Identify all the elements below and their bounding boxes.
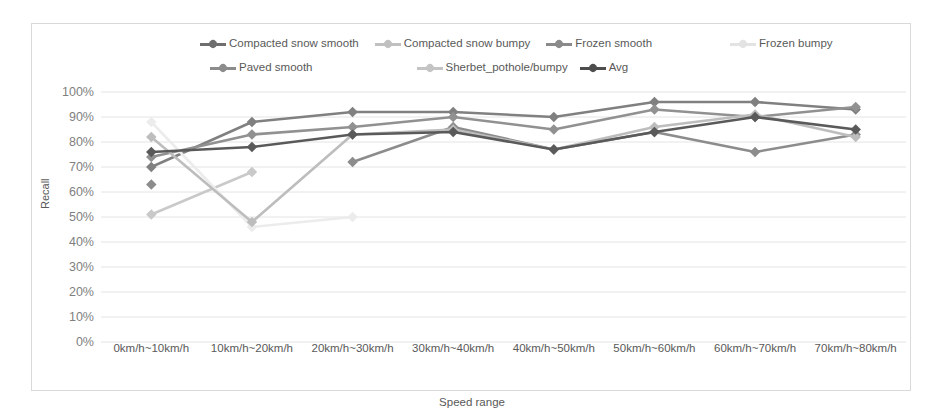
data-point-marker xyxy=(146,132,156,142)
y-axis-tick-label: 90% xyxy=(48,110,94,124)
y-axis-tick-label: 0% xyxy=(48,335,94,349)
x-axis-tick-label: 50km/h~60km/h xyxy=(604,342,705,354)
data-point-marker xyxy=(347,107,357,117)
series-line xyxy=(146,109,861,227)
data-point-marker xyxy=(850,102,860,112)
y-axis-tick-label: 30% xyxy=(48,260,94,274)
series-line xyxy=(146,167,257,220)
y-axis-tick-label: 60% xyxy=(48,185,94,199)
x-axis-tick-label: 0km/h~10km/h xyxy=(101,342,202,354)
chart-legend: Compacted snow smoothCompacted snow bump… xyxy=(32,32,912,80)
series-line xyxy=(146,97,861,172)
data-point-marker xyxy=(549,144,559,154)
data-point-marker xyxy=(549,112,559,122)
data-point-marker xyxy=(146,117,156,127)
legend-label: Compacted snow smooth xyxy=(229,38,359,50)
data-point-marker xyxy=(347,122,357,132)
legend-item[interactable]: Frozen bumpy xyxy=(730,38,833,50)
data-point-marker xyxy=(649,127,659,137)
legend-label: Frozen bumpy xyxy=(759,38,833,50)
x-axis-tick-label: 70km/h~80km/h xyxy=(805,342,906,354)
legend-marker-icon xyxy=(580,62,606,74)
legend-marker-icon xyxy=(200,38,226,50)
data-point-marker xyxy=(247,217,257,227)
data-point-marker xyxy=(146,147,156,157)
legend-item[interactable]: Frozen smooth xyxy=(546,38,652,50)
y-axis-tick-label: 50% xyxy=(48,210,94,224)
data-point-marker xyxy=(247,129,257,139)
data-point-marker xyxy=(549,124,559,134)
y-axis-tick-label: 10% xyxy=(48,310,94,324)
data-point-marker xyxy=(750,109,760,119)
data-point-marker xyxy=(146,179,156,189)
data-point-marker xyxy=(146,209,156,219)
data-point-marker xyxy=(247,167,257,177)
legend-item[interactable]: Paved smooth xyxy=(210,62,313,74)
x-axis-title: Speed range xyxy=(32,396,912,408)
legend-item[interactable]: Compacted snow bumpy xyxy=(375,38,531,50)
data-point-marker xyxy=(750,97,760,107)
x-axis-tick-label: 60km/h~70km/h xyxy=(705,342,806,354)
data-point-marker xyxy=(146,162,156,172)
y-axis-tick-label: 70% xyxy=(48,160,94,174)
data-point-marker xyxy=(850,132,860,142)
data-point-marker xyxy=(549,144,559,154)
y-axis-tick-label: 100% xyxy=(48,85,94,99)
data-point-marker xyxy=(448,124,458,134)
data-point-marker xyxy=(649,122,659,132)
series-line xyxy=(146,102,861,162)
y-axis-tick-label: 20% xyxy=(48,285,94,299)
y-axis-tick-label: 40% xyxy=(48,235,94,249)
data-point-marker xyxy=(247,222,257,232)
data-point-marker xyxy=(649,97,659,107)
data-point-marker xyxy=(549,144,559,154)
data-point-marker xyxy=(850,129,860,139)
data-point-marker xyxy=(247,117,257,127)
data-point-marker xyxy=(347,129,357,139)
data-point-marker xyxy=(146,152,156,162)
data-point-marker xyxy=(448,112,458,122)
y-axis-tick-label: 80% xyxy=(48,135,94,149)
legend-label: Frozen smooth xyxy=(575,38,652,50)
x-axis-tick-label: 30km/h~40km/h xyxy=(403,342,504,354)
x-axis-tick-label: 20km/h~30km/h xyxy=(302,342,403,354)
legend-item[interactable]: Avg xyxy=(580,62,629,74)
data-point-marker xyxy=(750,112,760,122)
data-point-marker xyxy=(649,127,659,137)
data-point-marker xyxy=(850,124,860,134)
legend-marker-icon xyxy=(375,38,401,50)
data-point-marker xyxy=(448,127,458,137)
x-axis-tick-label: 10km/h~20km/h xyxy=(202,342,303,354)
series-line xyxy=(146,117,358,232)
legend-label: Sherbet_pothole/bumpy xyxy=(446,62,568,74)
data-point-marker xyxy=(750,147,760,157)
data-point-marker xyxy=(850,104,860,114)
x-axis-tick-label: 40km/h~50km/h xyxy=(504,342,605,354)
legend-marker-icon xyxy=(730,38,756,50)
series-line xyxy=(146,112,861,157)
x-axis-tick-labels: 0km/h~10km/h10km/h~20km/h20km/h~30km/h30… xyxy=(101,342,906,354)
series-line xyxy=(146,122,861,190)
data-point-marker xyxy=(448,107,458,117)
legend-item[interactable]: Compacted snow smooth xyxy=(200,38,359,50)
data-point-marker xyxy=(750,112,760,122)
data-point-marker xyxy=(649,104,659,114)
legend-marker-icon xyxy=(417,62,443,74)
data-point-marker xyxy=(347,157,357,167)
legend-label: Avg xyxy=(609,62,629,74)
legend-row-2: Paved smoothSherbet_pothole/bumpyAvg xyxy=(32,56,912,80)
legend-label: Paved smooth xyxy=(239,62,313,74)
legend-row-1: Compacted snow smoothCompacted snow bump… xyxy=(32,32,912,56)
data-point-marker xyxy=(247,142,257,152)
legend-marker-icon xyxy=(210,62,236,74)
data-point-marker xyxy=(347,212,357,222)
data-point-marker xyxy=(448,122,458,132)
chart-container: Compacted snow smoothCompacted snow bump… xyxy=(31,23,911,391)
legend-label: Compacted snow bumpy xyxy=(404,38,531,50)
gridlines xyxy=(101,92,906,342)
legend-item[interactable]: Sherbet_pothole/bumpy xyxy=(417,62,568,74)
data-point-marker xyxy=(347,129,357,139)
legend-marker-icon xyxy=(546,38,572,50)
y-axis-tick-labels: 0%10%20%30%40%50%60%70%80%90%100% xyxy=(48,24,94,392)
